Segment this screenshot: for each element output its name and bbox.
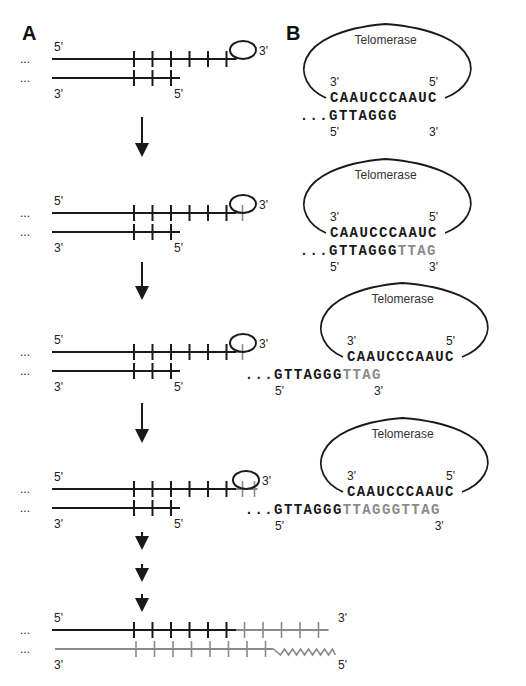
dna-3prime-label: 3' xyxy=(435,519,444,533)
ellipsis-bottom: ... xyxy=(20,225,30,239)
dna-new-sequence: TTAG xyxy=(398,243,437,259)
ellipsis-top: ... xyxy=(20,482,30,496)
down-arrow xyxy=(135,564,149,582)
dna-ellipsis: ... xyxy=(300,108,329,124)
top-3prime-label: 3' xyxy=(259,337,268,351)
bottom-5prime-label: 5' xyxy=(174,517,183,531)
stage-5: ......5'3'3'5' xyxy=(20,611,347,672)
telomerase-enzyme xyxy=(230,41,256,59)
top-5prime-label: 5' xyxy=(54,333,63,347)
rna-template-sequence: CAAUCCCAAUC xyxy=(347,484,455,500)
top-5prime-label: 5' xyxy=(54,611,63,625)
telomerase-step-4: Telomerase3'5'CAAUCCCAAUC...GTTAGGGTTAGG… xyxy=(245,418,488,533)
bottom-3prime-label: 3' xyxy=(54,380,63,394)
top-5prime-label: 5' xyxy=(54,40,63,54)
dna-original-sequence: GTTAGGG xyxy=(274,502,343,518)
rna-template-sequence: CAAUCCCAAUC xyxy=(347,349,455,365)
arrow-head xyxy=(135,536,149,550)
bottom-3prime-label: 3' xyxy=(54,517,63,531)
template-5prime-label: 5' xyxy=(446,334,455,348)
dna-ellipsis: ... xyxy=(300,243,329,259)
top-5prime-label: 5' xyxy=(54,470,63,484)
arrow-head xyxy=(135,568,149,582)
template-5prime-label: 5' xyxy=(429,75,438,89)
telomerase-step-2: Telomerase3'5'CAAUCCCAAUC...GTTAGGGTTAG5… xyxy=(300,159,471,274)
template-5prime-label: 5' xyxy=(429,210,438,224)
dna-new-sequence: TTAGGGTTAG xyxy=(343,502,441,518)
bottom-5prime-label: 5' xyxy=(174,241,183,255)
dna-ellipsis: ... xyxy=(245,502,274,518)
telomerase-enzyme xyxy=(233,471,259,489)
template-5prime-label: 5' xyxy=(446,469,455,483)
down-arrow xyxy=(135,262,149,300)
telomerase-label: Telomerase xyxy=(372,427,434,441)
ellipsis-top: ... xyxy=(20,52,30,66)
dna-original-sequence: GTTAGGG xyxy=(329,243,398,259)
down-arrow xyxy=(135,594,149,612)
telomerase-label: Telomerase xyxy=(355,168,417,182)
dna-3prime-label: 3' xyxy=(429,125,438,139)
stage-4: ......5'3'3'5' xyxy=(20,470,271,531)
rna-template-sequence: CAAUCCCAAUC xyxy=(330,90,438,106)
dna-5prime-label: 5' xyxy=(330,125,339,139)
ellipsis-top: ... xyxy=(20,623,30,637)
arrow-head xyxy=(135,286,149,300)
bottom-3prime-label: 3' xyxy=(54,87,63,101)
template-3prime-label: 3' xyxy=(330,75,339,89)
ellipsis-bottom: ... xyxy=(20,501,30,515)
stage-2: ......5'3'3'5' xyxy=(20,194,268,255)
ellipsis-bottom: ... xyxy=(20,71,30,85)
bottom-5prime-label: 5' xyxy=(174,87,183,101)
dna-3prime-label: 3' xyxy=(374,384,383,398)
dna-sequence: ...GTTAGGGTTAGGGTTAG xyxy=(245,502,441,518)
ellipsis-top: ... xyxy=(20,206,30,220)
bottom-5prime-label: 5' xyxy=(174,380,183,394)
dna-sequence: ...GTTAGGG xyxy=(300,108,398,124)
top-5prime-label: 5' xyxy=(54,194,63,208)
top-3prime-label: 3' xyxy=(262,474,271,488)
top-3prime-label: 3' xyxy=(259,198,268,212)
dna-ellipsis: ... xyxy=(245,367,274,383)
template-3prime-label: 3' xyxy=(347,334,356,348)
dna-5prime-label: 5' xyxy=(330,260,339,274)
down-arrow xyxy=(135,117,149,157)
telomerase-label: Telomerase xyxy=(372,292,434,306)
dna-original-sequence: GTTAGGG xyxy=(274,367,343,383)
telomerase-label: Telomerase xyxy=(355,33,417,47)
top-3prime-label: 3' xyxy=(259,44,268,58)
rna-template-sequence: CAAUCCCAAUC xyxy=(330,225,438,241)
dna-3prime-label: 3' xyxy=(429,260,438,274)
template-3prime-label: 3' xyxy=(347,469,356,483)
bottom-5prime-label: 5' xyxy=(338,658,347,672)
panel-b: Telomerase3'5'CAAUCCCAAUC...GTTAGGG5'3'T… xyxy=(245,24,488,533)
telomerase-step-1: Telomerase3'5'CAAUCCCAAUC...GTTAGGG5'3' xyxy=(300,24,471,139)
telomerase-step-3: Telomerase3'5'CAAUCCCAAUC...GTTAGGGTTAG5… xyxy=(245,283,488,398)
dna-original-sequence: GTTAGGG xyxy=(329,108,398,124)
stage-3: ......5'3'3'5' xyxy=(20,333,268,394)
rna-primer-zigzag xyxy=(274,649,336,655)
ellipsis-top: ... xyxy=(20,345,30,359)
arrow-head xyxy=(135,143,149,157)
template-3prime-label: 3' xyxy=(330,210,339,224)
panel-b-label: B xyxy=(286,22,300,44)
down-arrow xyxy=(135,403,149,443)
dna-new-sequence: TTAG xyxy=(343,367,382,383)
telomerase-diagram: A B ......5'3'3'5'......5'3'3'5'......5'… xyxy=(0,0,526,686)
arrow-head xyxy=(135,598,149,612)
panel-a-label: A xyxy=(22,22,36,44)
arrow-head xyxy=(135,429,149,443)
ellipsis-bottom: ... xyxy=(20,364,30,378)
stage-1: ......5'3'3'5' xyxy=(20,40,268,101)
ellipsis-bottom: ... xyxy=(20,642,30,656)
dna-sequence: ...GTTAGGGTTAG xyxy=(300,243,437,259)
dna-5prime-label: 5' xyxy=(275,384,284,398)
dna-sequence: ...GTTAGGGTTAG xyxy=(245,367,382,383)
top-3prime-label: 3' xyxy=(338,611,347,625)
down-arrow xyxy=(135,532,149,550)
panel-a: ......5'3'3'5'......5'3'3'5'......5'3'3'… xyxy=(20,40,347,672)
bottom-3prime-label: 3' xyxy=(54,658,63,672)
bottom-3prime-label: 3' xyxy=(54,241,63,255)
dna-5prime-label: 5' xyxy=(275,519,284,533)
